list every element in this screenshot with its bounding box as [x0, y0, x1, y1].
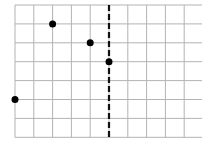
data-point [87, 39, 94, 46]
data-point [12, 96, 19, 103]
grid-diagram [0, 0, 202, 149]
data-point [49, 20, 56, 27]
data-point [106, 58, 113, 65]
